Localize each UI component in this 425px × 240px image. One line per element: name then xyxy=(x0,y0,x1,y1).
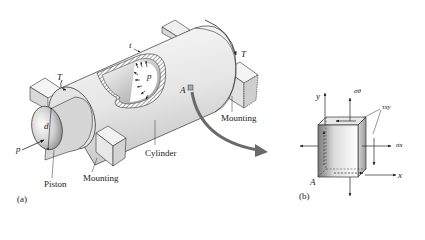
label-internal-pressure: p xyxy=(147,72,152,81)
label-y-axis: y xyxy=(316,92,320,101)
label-piston-pressure: p xyxy=(16,145,21,154)
label-torque-right: T xyxy=(241,50,246,59)
thickness-pointer xyxy=(134,49,140,52)
label-x-axis: x xyxy=(398,171,402,180)
label-shear-stress: τxy xyxy=(382,104,391,111)
panel-b-tag: (b) xyxy=(299,192,310,201)
label-mounting-back: Mounting xyxy=(221,114,257,123)
label-point-a: A xyxy=(180,86,186,95)
zoom-arrowhead xyxy=(255,144,268,157)
label-cylinder: Cylinder xyxy=(145,149,177,158)
label-point-a-cube: A xyxy=(310,178,316,187)
panel-a-tag: (a) xyxy=(17,195,27,204)
label-hoop-stress: σθ xyxy=(354,88,361,95)
label-axial-stress: σx xyxy=(396,142,403,149)
label-torque-left: T xyxy=(57,73,62,82)
label-mounting-front: Mounting xyxy=(83,174,119,183)
piston xyxy=(28,97,93,160)
label-wall-thickness: t xyxy=(129,41,132,50)
label-diameter: d xyxy=(44,122,49,131)
point-a-element xyxy=(188,85,193,90)
cube-side-face xyxy=(358,117,366,177)
label-piston: Piston xyxy=(44,180,67,189)
